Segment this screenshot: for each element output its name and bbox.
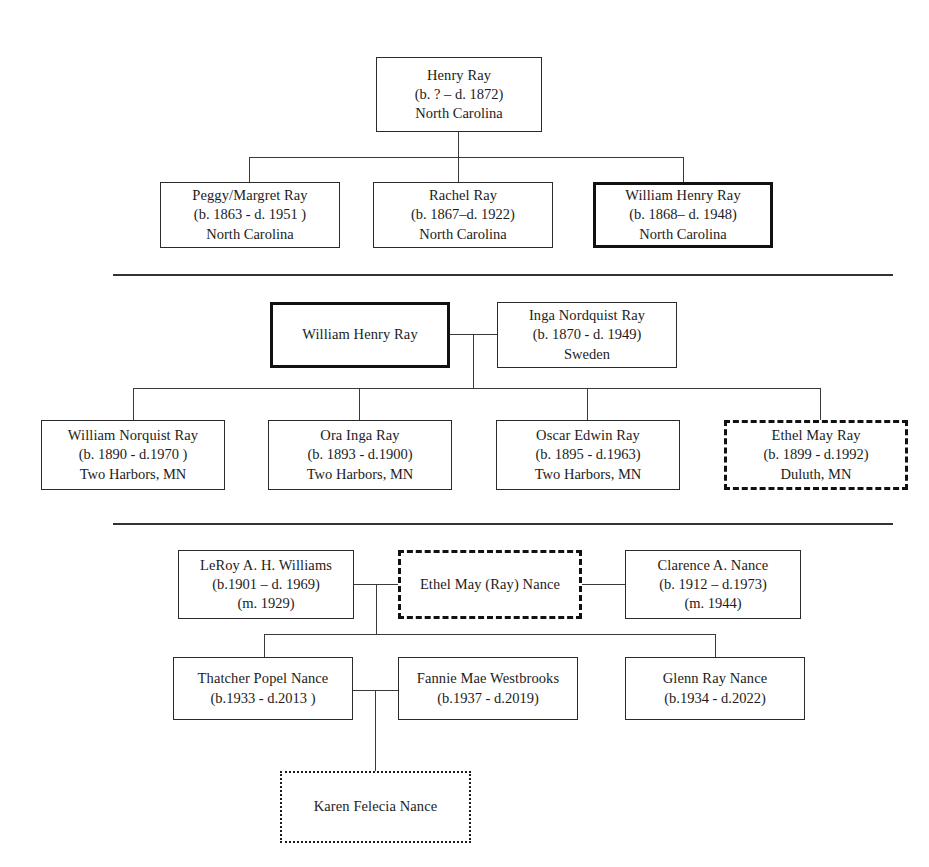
person-name: Thatcher Popel Nance	[198, 669, 329, 688]
connector-drop-ethel-may	[820, 388, 821, 420]
connector-marriage-ethel-clarence	[582, 584, 626, 585]
person-name: Ethel May (Ray) Nance	[420, 575, 560, 594]
person-dates: (b. 1899 - d.1992)	[763, 445, 868, 464]
person-name: Clarence A. Nance	[658, 556, 769, 575]
person-card-fannie-mae-westbrooks: Fannie Mae Westbrooks (b.1937 - d.2019)	[398, 657, 578, 720]
person-card-william-norquist-ray: William Norquist Ray (b. 1890 - d.1970 )…	[41, 420, 225, 490]
connector-bus-gen3-children	[264, 634, 716, 635]
connector-drop-william	[683, 157, 684, 182]
person-card-rachel-ray: Rachel Ray (b. 1867–d. 1922) North Carol…	[373, 182, 553, 248]
person-place: Two Harbors, MN	[80, 465, 187, 484]
person-place: North Carolina	[206, 225, 293, 244]
person-name: Peggy/Margret Ray	[192, 186, 307, 205]
person-name: LeRoy A. H. Williams	[200, 556, 332, 575]
person-place: Sweden	[564, 345, 610, 364]
person-name: Karen Felecia Nance	[314, 797, 437, 816]
person-card-karen-felecia-nance: Karen Felecia Nance	[280, 771, 471, 843]
person-place: North Carolina	[639, 225, 726, 244]
person-card-thatcher-popel-nance: Thatcher Popel Nance (b.1933 - d.2013 )	[173, 657, 353, 720]
person-name: Henry Ray	[427, 66, 491, 85]
person-dates: (b. 1868– d. 1948)	[629, 205, 737, 224]
person-place: Two Harbors, MN	[535, 465, 642, 484]
person-card-william-henry-ray: William Henry Ray (b. 1868– d. 1948) Nor…	[593, 182, 773, 248]
connector-drop-rachel	[458, 157, 459, 182]
person-card-inga-nordquist-ray: Inga Nordquist Ray (b. 1870 - d. 1949) S…	[497, 302, 677, 368]
person-card-william-henry-ray-repeat: William Henry Ray	[270, 302, 450, 368]
person-name: Oscar Edwin Ray	[536, 426, 640, 445]
person-card-peggy-margret-ray: Peggy/Margret Ray (b. 1863 - d. 1951 ) N…	[160, 182, 340, 248]
person-dates: (b.1937 - d.2019)	[437, 689, 539, 708]
section-divider-1	[113, 274, 893, 276]
connector-marriage-stem-gen2	[473, 334, 474, 388]
person-dates: (b. 1890 - d.1970 )	[79, 445, 188, 464]
person-place: Two Harbors, MN	[307, 465, 414, 484]
person-dates: (b. 1867–d. 1922)	[411, 205, 515, 224]
person-card-ethel-may-ray: Ethel May Ray (b. 1899 - d.1992) Duluth,…	[724, 420, 908, 490]
section-divider-2	[113, 523, 893, 525]
person-card-leroy-williams: LeRoy A. H. Williams (b.1901 – d. 1969) …	[178, 550, 354, 619]
person-name: Ethel May Ray	[771, 426, 860, 445]
person-dates: (b. 1863 - d. 1951 )	[194, 205, 306, 224]
connector-marriage-stem-gen3	[376, 584, 377, 634]
person-place: Duluth, MN	[781, 465, 852, 484]
connector-drop-glenn	[715, 634, 716, 657]
person-name: Ora Inga Ray	[320, 426, 399, 445]
person-dates: (b. 1893 - d.1900)	[307, 445, 412, 464]
connector-bus-gen2-children	[133, 388, 821, 389]
person-dates: (b. ? – d. 1872)	[415, 85, 504, 104]
person-dates: (b.1934 - d.2022)	[664, 689, 766, 708]
connector-drop-william-norquist	[133, 388, 134, 420]
connector-drop-peggy	[249, 157, 250, 182]
person-name: Rachel Ray	[429, 186, 497, 205]
person-card-ora-inga-ray: Ora Inga Ray (b. 1893 - d.1900) Two Harb…	[268, 420, 452, 490]
person-place: North Carolina	[415, 104, 502, 123]
person-place: North Carolina	[419, 225, 506, 244]
person-card-ethel-may-ray-nance: Ethel May (Ray) Nance	[398, 550, 582, 619]
family-tree-diagram: Henry Ray (b. ? – d. 1872) North Carolin…	[0, 0, 929, 867]
connector-drop-ora-inga	[359, 388, 360, 420]
person-dates: (b.1933 - d.2013 )	[210, 689, 315, 708]
person-marriage: (m. 1944)	[684, 594, 741, 613]
person-name: William Norquist Ray	[68, 426, 198, 445]
person-dates: (b. 1870 - d. 1949)	[533, 325, 642, 344]
person-name: Glenn Ray Nance	[663, 669, 768, 688]
person-dates: (b.1901 – d. 1969)	[212, 575, 320, 594]
person-name: Inga Nordquist Ray	[529, 306, 645, 325]
connector-drop-oscar-edwin	[587, 388, 588, 420]
person-card-glenn-ray-nance: Glenn Ray Nance (b.1934 - d.2022)	[625, 657, 805, 720]
person-card-henry-ray: Henry Ray (b. ? – d. 1872) North Carolin…	[376, 57, 542, 132]
person-name: Fannie Mae Westbrooks	[417, 669, 559, 688]
person-card-clarence-nance: Clarence A. Nance (b. 1912 – d.1973) (m.…	[625, 550, 801, 619]
connector-drop-thatcher	[264, 634, 265, 657]
connector-bus-gen1	[249, 157, 684, 158]
person-marriage: (m. 1929)	[237, 594, 294, 613]
person-name: William Henry Ray	[302, 325, 417, 344]
person-dates: (b. 1895 - d.1963)	[535, 445, 640, 464]
person-name: William Henry Ray	[625, 186, 740, 205]
person-card-oscar-edwin-ray: Oscar Edwin Ray (b. 1895 - d.1963) Two H…	[496, 420, 680, 490]
person-dates: (b. 1912 – d.1973)	[659, 575, 767, 594]
connector-marriage-stem-gen4	[375, 690, 376, 771]
